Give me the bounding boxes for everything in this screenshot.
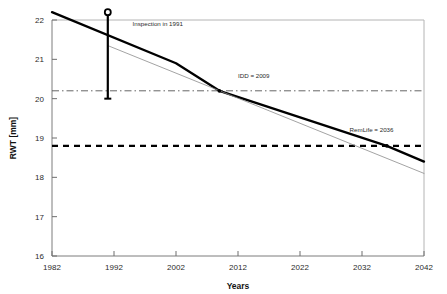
y-tick-label: 17 [35,213,44,222]
y-tick-label: 19 [35,134,44,143]
idd-annotation: IDD = 2009 [238,72,270,79]
y-tick-label: 21 [35,55,44,64]
x-tick-label: 2022 [291,263,309,272]
x-axis-title: Years [227,281,250,291]
y-tick-label: 20 [35,95,44,104]
x-tick-label: 1982 [43,263,61,272]
rwt-remaining-life-chart: 16171819202122 1982199220022012202220322… [0,0,447,294]
x-tick-label: 2042 [415,263,433,272]
remlife-annotation: RemLife = 2036 [350,126,394,133]
idd-point-dot [218,89,222,93]
y-axis-title: RWT [mm] [8,117,18,160]
inspection-marker-circle [105,9,111,15]
chart-background [0,0,447,294]
x-tick-label: 2002 [167,263,185,272]
x-tick-label: 2012 [229,263,247,272]
chart-container: 16171819202122 1982199220022012202220322… [0,0,447,294]
y-tick-label: 22 [35,16,44,25]
y-tick-label: 16 [35,252,44,261]
x-tick-label: 1992 [105,263,123,272]
x-tick-label: 2032 [353,263,371,272]
y-tick-label: 18 [35,173,44,182]
remlife-point-dot [385,144,389,148]
inspection-annotation: Inspection in 1991 [133,20,184,27]
